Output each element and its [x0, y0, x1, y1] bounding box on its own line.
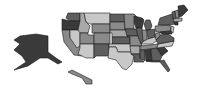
state-in: [142, 30, 147, 41]
state-fl: [146, 60, 170, 72]
state-wi: [134, 16, 144, 28]
state-ct: [174, 22, 178, 25]
us-choropleth-map: [0, 0, 206, 95]
state-nm: [94, 44, 109, 58]
state-wy: [92, 24, 110, 33]
state-ut: [80, 33, 94, 44]
state-nd: [110, 14, 125, 22]
state-ia: [125, 29, 138, 36]
state-sd: [110, 22, 125, 30]
state-mt: [84, 13, 110, 24]
state-ak: [14, 34, 62, 70]
state-hi: [68, 70, 92, 84]
state-me: [178, 5, 188, 17]
state-mi: [144, 20, 152, 30]
state-ks: [112, 37, 130, 44]
state-ar: [130, 46, 140, 54]
state-co: [94, 33, 110, 44]
state-ma: [173, 18, 182, 22]
state-wa: [66, 13, 80, 21]
